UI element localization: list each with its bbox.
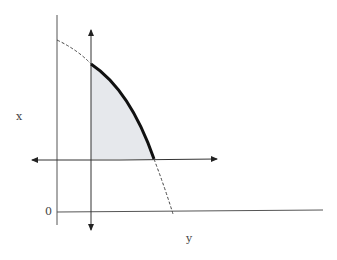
horizontal-arrow-right [120, 159, 217, 160]
x-axis-label: x [16, 110, 22, 123]
dashed-curve-lower [154, 159, 173, 214]
bottom-horizontal-axis [57, 210, 323, 212]
shaded-region [91, 64, 154, 159]
origin-label: 0 [45, 205, 52, 218]
diagram-canvas [0, 0, 337, 260]
y-axis-label: y [186, 232, 192, 245]
dashed-curve-upper [57, 40, 91, 64]
